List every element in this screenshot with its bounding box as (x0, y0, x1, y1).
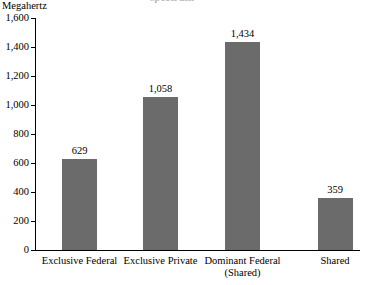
y-axis-tick (31, 192, 36, 193)
y-axis-tick (31, 18, 36, 19)
bar-value-label: 1,434 (203, 28, 283, 39)
y-axis-unit-label: Megahertz (2, 0, 47, 12)
clipped-title-text: spectrum (150, 0, 194, 3)
y-axis-tick-label: 600 (0, 158, 29, 168)
clipped-title-strip: spectrum (0, 0, 375, 4)
x-axis-category-label-line: Dominant Federal (204, 255, 280, 266)
y-axis-tick (31, 163, 36, 164)
x-axis-category-label: Shared (280, 255, 375, 267)
y-axis-tick-label: 1,000 (0, 100, 29, 110)
bar (225, 42, 260, 250)
y-axis-tick (31, 134, 36, 135)
bar (318, 198, 353, 250)
x-axis-category-label-line: (Shared) (188, 267, 298, 279)
bar (62, 159, 97, 250)
bar-chart: spectrum Megahertz 02004006008001,0001,2… (0, 0, 375, 285)
y-axis-tick (31, 221, 36, 222)
x-axis-category-label-line: Exclusive Private (124, 255, 198, 266)
y-axis-tick (31, 250, 36, 251)
y-axis-tick (31, 105, 36, 106)
x-axis-line (35, 250, 360, 251)
y-axis-tick-label: 1,200 (0, 71, 29, 81)
y-axis-tick-label: 400 (0, 187, 29, 197)
bar-value-label: 359 (295, 184, 375, 195)
y-axis-tick (31, 47, 36, 48)
bar (143, 97, 178, 250)
y-axis-tick-label: 1,600 (0, 13, 29, 23)
bar-value-label: 1,058 (121, 83, 201, 94)
y-axis-tick-label: 800 (0, 129, 29, 139)
y-axis-tick-label: 0 (0, 245, 29, 255)
y-axis-tick-label: 200 (0, 216, 29, 226)
y-axis-tick (31, 76, 36, 77)
y-axis-tick-label: 1,400 (0, 42, 29, 52)
bar-value-label: 629 (40, 145, 120, 156)
x-axis-category-label-line: Shared (320, 255, 349, 266)
y-axis-line (35, 18, 36, 251)
